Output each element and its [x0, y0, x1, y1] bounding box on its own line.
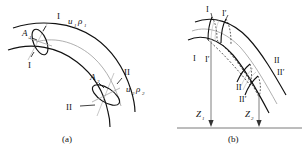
svg-text:ρ: ρ	[77, 16, 83, 26]
arrowhead-z1	[208, 120, 213, 127]
label-a-area1: A 1	[21, 28, 32, 40]
label-b-height2: Z 2	[245, 109, 254, 121]
cross-section-b2-front	[237, 64, 250, 82]
leader-b-section1-top	[211, 13, 212, 17]
label-a-section1-top: I	[57, 11, 60, 21]
svg-text:1: 1	[84, 23, 87, 28]
caption-panel-b: (b)	[228, 134, 239, 144]
svg-text:ρ: ρ	[135, 84, 141, 94]
slice-b2-b	[243, 72, 256, 90]
panel-b: I I′ I I′ II II′ II II′ Z 1 Z 2 (b)	[177, 4, 302, 144]
label-b-section2p-bottom: II′	[239, 94, 247, 104]
svg-text:1: 1	[29, 35, 32, 40]
cross-section-a2-minor-axis	[92, 88, 120, 102]
svg-text:u: u	[68, 16, 73, 26]
label-b-section1p-bottom: I′	[205, 54, 210, 64]
svg-text:1: 1	[202, 116, 205, 121]
svg-text:1: 1	[74, 23, 77, 28]
cross-section-a1-minor-axis	[28, 38, 52, 46]
svg-text:u: u	[126, 84, 131, 94]
label-b-section2p-top: II′	[277, 67, 285, 77]
label-a-velocity-density-2: u 2 ρ 2	[126, 84, 145, 96]
hidden-edge-b-upper-dashed	[208, 40, 250, 85]
arrowhead-z2	[256, 120, 261, 127]
svg-text:A: A	[21, 28, 28, 38]
label-b-section1-top: I	[206, 4, 209, 14]
svg-text:2: 2	[251, 116, 254, 121]
figure-container: I I A 1 u 1 ρ 1 A 2 II II u 2 ρ 2 (a)	[0, 0, 303, 158]
leader-a-section1-top	[43, 26, 46, 31]
label-a-area2: A 2	[89, 72, 100, 84]
label-b-height1: Z 1	[196, 109, 205, 121]
label-b-section1-bottom: I	[193, 53, 196, 63]
label-a-section2-top: II	[124, 67, 130, 77]
svg-text:2: 2	[142, 91, 145, 96]
slice-b1-a	[211, 21, 214, 41]
svg-text:2: 2	[132, 91, 135, 96]
svg-text:A: A	[89, 72, 96, 82]
caption-panel-a: (a)	[62, 134, 72, 144]
leader-a-section2-bottom	[80, 105, 95, 106]
tube-a-section2-guide	[97, 73, 114, 116]
label-b-section2-top: II	[274, 55, 280, 65]
leader-a-section2-top	[117, 78, 122, 84]
label-a-section2-bottom: II	[66, 102, 72, 112]
panel-a: I I A 1 u 1 ρ 1 A 2 II II u 2 ρ 2 (a)	[8, 11, 145, 144]
label-a-section1-bottom: I	[28, 60, 31, 70]
label-b-section1p-top: I′	[222, 8, 227, 18]
stream-tube-figure: I I A 1 u 1 ρ 1 A 2 II II u 2 ρ 2 (a)	[0, 0, 303, 158]
label-b-section2-bottom: II	[236, 82, 242, 92]
tube-b-center-streamline	[192, 29, 277, 104]
